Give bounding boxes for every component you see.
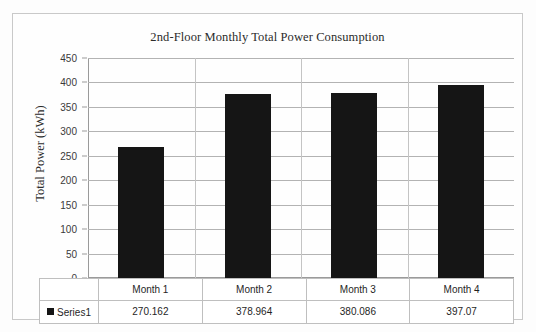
table-row-categories: Month 1 Month 2 Month 3 Month 4 bbox=[40, 279, 514, 301]
data-table: Month 1 Month 2 Month 3 Month 4 Series1 … bbox=[39, 278, 514, 320]
plot-inner bbox=[88, 58, 514, 278]
bar-month-2[interactable] bbox=[225, 94, 271, 278]
y-tick-label: 450 bbox=[60, 53, 77, 64]
y-tick-label: 100 bbox=[60, 224, 77, 235]
bar-month-3[interactable] bbox=[331, 93, 377, 278]
legend-entry-series1[interactable]: Series1 bbox=[40, 301, 99, 324]
y-tick-mark bbox=[82, 253, 87, 254]
y-axis-tick-labels: 450 400 350 300 250 200 150 100 50 0 bbox=[13, 58, 83, 278]
y-tick-mark bbox=[82, 106, 87, 107]
y-tick-mark bbox=[82, 229, 87, 230]
table-cell-category: Month 1 bbox=[99, 279, 203, 301]
series1-swatch-icon bbox=[47, 308, 54, 315]
bars-layer bbox=[88, 58, 514, 278]
table-cell-category: Month 3 bbox=[306, 279, 410, 301]
chart-screenshot: 2nd-Floor Monthly Total Power Consumptio… bbox=[0, 0, 536, 332]
y-tick-mark bbox=[82, 155, 87, 156]
y-tick-label: 350 bbox=[60, 101, 77, 112]
y-tick-label: 250 bbox=[60, 150, 77, 161]
legend-label: Series1 bbox=[57, 302, 91, 323]
table-corner-cell bbox=[40, 279, 99, 301]
table-cell-value: 378.964 bbox=[202, 301, 306, 324]
y-tick-label: 150 bbox=[60, 199, 77, 210]
table-cell-category: Month 4 bbox=[410, 279, 514, 301]
y-tick-label: 200 bbox=[60, 175, 77, 186]
table-cell-value: 270.162 bbox=[99, 301, 203, 324]
table-cell-category: Month 2 bbox=[202, 279, 306, 301]
y-tick-mark bbox=[82, 58, 87, 59]
bar-month-4[interactable] bbox=[438, 85, 484, 278]
table-cell-value: 380.086 bbox=[306, 301, 410, 324]
y-tick-label: 400 bbox=[60, 77, 77, 88]
table-cell-value: 397.07 bbox=[410, 301, 514, 324]
y-tick-mark bbox=[82, 131, 87, 132]
plot-area bbox=[88, 58, 514, 278]
chart-frame: 2nd-Floor Monthly Total Power Consumptio… bbox=[12, 13, 523, 320]
y-tick-mark bbox=[82, 180, 87, 181]
y-tick-label: 300 bbox=[60, 126, 77, 137]
chart-title: 2nd-Floor Monthly Total Power Consumptio… bbox=[13, 30, 522, 45]
y-tick-mark bbox=[82, 82, 87, 83]
y-tick-label: 50 bbox=[66, 248, 77, 259]
y-tick-mark bbox=[82, 204, 87, 205]
table-row-values: Series1 270.162 378.964 380.086 397.07 bbox=[40, 301, 514, 324]
bar-month-1[interactable] bbox=[118, 147, 164, 278]
